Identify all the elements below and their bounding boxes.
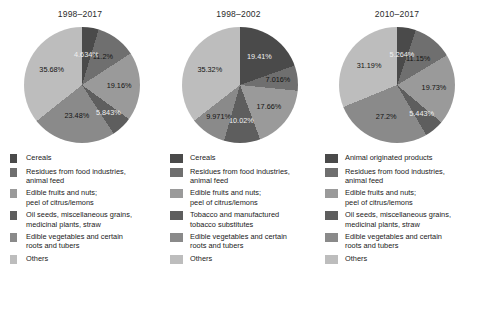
chart-title-2: 1998–2002: [160, 9, 317, 21]
legend-item: Cereals: [170, 153, 317, 163]
legend-swatch-icon: [170, 211, 183, 220]
slice-label: 7.016%: [266, 77, 291, 84]
legend-label: Residues from food industries, animal fe…: [345, 167, 445, 185]
slice-label: 10.02%: [229, 117, 254, 124]
slice-label: 35.32%: [197, 67, 222, 74]
legend-item: Others: [14, 254, 160, 264]
chart-title-3: 2010–2017: [317, 9, 477, 21]
legend-swatch-icon: [170, 168, 183, 177]
legend-swatch-icon: [170, 233, 183, 242]
legend-item: Residues from food industries, animal fe…: [14, 167, 160, 185]
legend-swatch-icon: [10, 211, 17, 220]
top-crop-strip: [0, 0, 477, 3]
slice-label: 19.73%: [422, 84, 447, 91]
legend-swatch-icon: [325, 189, 338, 198]
chart-panel-2: 1998–2002 19.41% 7.016% 17.66% 10.02% 9.…: [160, 0, 317, 268]
legend-label: Tobacco and manufactured tobacco substit…: [190, 210, 279, 228]
legend-2: Cereals Residues from food industries, a…: [160, 153, 317, 264]
legend-label: Others: [345, 254, 367, 263]
slice-label: 19.16%: [107, 82, 132, 89]
legend-swatch-icon: [325, 255, 338, 264]
chart-panel-1: 1998–2017 4.634% 11.2% 19.16% 5.843% 23.…: [0, 0, 160, 268]
legend-item: Oil seeds, miscellaneous grains, medicin…: [325, 210, 477, 228]
legend-swatch-icon: [10, 233, 17, 242]
legend-label: Edible vegetables and certain roots and …: [190, 232, 287, 250]
chart-panel-3: 2010–2017 5.264% 11.15% 19.73% 5.443% 27…: [317, 0, 477, 268]
slice-label: 31.19%: [357, 63, 382, 70]
slice-label: 19.41%: [247, 54, 272, 61]
legend-item: Cereals: [14, 153, 160, 163]
slice-label: 5.843%: [96, 109, 121, 116]
slice-label: 23.48%: [64, 113, 89, 120]
legend-label: Animal originated products: [345, 153, 433, 162]
legend-label: Residues from food industries, animal fe…: [190, 167, 290, 185]
legend-item: Residues from food industries, animal fe…: [325, 167, 477, 185]
chart-panels: 1998–2017 4.634% 11.2% 19.16% 5.843% 23.…: [0, 0, 477, 268]
legend-label: Cereals: [190, 153, 215, 162]
legend-label: Edible fruits and nuts; peel of citrus/l…: [26, 188, 97, 206]
legend-swatch-icon: [10, 154, 17, 163]
legend-item: Others: [170, 254, 317, 264]
legend-item: Residues from food industries, animal fe…: [170, 167, 317, 185]
legend-item: Edible vegetables and certain roots and …: [325, 232, 477, 250]
legend-label: Edible fruits and nuts; peel of citrus/l…: [345, 188, 416, 206]
legend-item: Edible vegetables and certain roots and …: [170, 232, 317, 250]
slice-label: 11.2%: [93, 53, 113, 60]
slice-label: 17.66%: [257, 104, 282, 111]
legend-label: Edible fruits and nuts; peel of citrus/l…: [190, 188, 261, 206]
pie-chart-2: [182, 27, 298, 143]
legend-item: Edible fruits and nuts; peel of citrus/l…: [14, 188, 160, 206]
legend-label: Edible vegetables and certain roots and …: [26, 232, 123, 250]
legend-label: Cereals: [26, 153, 51, 162]
legend-item: Others: [325, 254, 477, 264]
slice-label: 11.15%: [406, 55, 430, 62]
chart-title-1: 1998–2017: [0, 9, 160, 21]
legend-label: Oil seeds, miscellaneous grains, medicin…: [26, 210, 132, 228]
pie-wrap-2: 19.41% 7.016% 17.66% 10.02% 9.971% 35.32…: [160, 21, 317, 149]
legend-swatch-icon: [325, 168, 338, 177]
legend-label: Edible vegetables and certain roots and …: [345, 232, 442, 250]
slice-label: 5.443%: [409, 111, 434, 118]
figure-three-pie-charts: 1998–2017 4.634% 11.2% 19.16% 5.843% 23.…: [0, 0, 477, 316]
legend-swatch-icon: [10, 168, 17, 177]
legend-item: Edible fruits and nuts; peel of citrus/l…: [170, 188, 317, 206]
slice-label: 35.68%: [39, 67, 64, 74]
legend-item: Edible vegetables and certain roots and …: [14, 232, 160, 250]
pie-wrap-1: 4.634% 11.2% 19.16% 5.843% 23.48% 35.68%: [0, 21, 160, 149]
legend-label: Others: [26, 254, 48, 263]
legend-item: Oil seeds, miscellaneous grains, medicin…: [14, 210, 160, 228]
legend-label: Others: [190, 254, 212, 263]
legend-1: Cereals Residues from food industries, a…: [0, 153, 160, 264]
slice-label: 27.2%: [376, 113, 397, 120]
legend-swatch-icon: [325, 233, 338, 242]
legend-item: Edible fruits and nuts; peel of citrus/l…: [325, 188, 477, 206]
legend-swatch-icon: [10, 189, 17, 198]
legend-3: Animal originated products Residues from…: [317, 153, 477, 264]
legend-swatch-icon: [10, 255, 17, 264]
legend-swatch-icon: [170, 189, 183, 198]
pie-wrap-3: 5.264% 11.15% 19.73% 5.443% 27.2% 31.19%: [317, 21, 477, 149]
legend-item: Tobacco and manufactured tobacco substit…: [170, 210, 317, 228]
legend-swatch-icon: [325, 154, 338, 163]
legend-swatch-icon: [325, 211, 338, 220]
legend-item: Animal originated products: [325, 153, 477, 163]
legend-swatch-icon: [170, 255, 183, 264]
slice-label: 9.971%: [206, 113, 231, 120]
legend-swatch-icon: [170, 154, 183, 163]
legend-label: Oil seeds, miscellaneous grains, medicin…: [345, 210, 451, 228]
legend-label: Residues from food industries, animal fe…: [26, 167, 126, 185]
